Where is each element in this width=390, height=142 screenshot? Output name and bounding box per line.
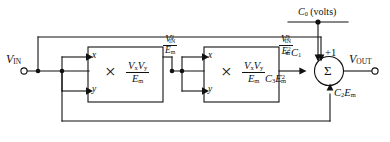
arrow-summer-c3 <box>299 68 306 75</box>
label-c0-source: C0 (volts) <box>298 7 336 17</box>
junction-input-node <box>60 69 65 74</box>
multiplier-2-formula-denominator: Em <box>242 72 265 85</box>
junction-c0-node <box>315 19 320 24</box>
multiplier-1-input-x-label: x <box>92 51 96 61</box>
stage1-out-denominator: Em <box>163 45 177 56</box>
multiplier-1-formula-denominator: Em <box>126 72 149 85</box>
multiplier-2-operator: × <box>221 62 232 81</box>
multiplier-2-formula-numerator: VxVy <box>242 60 265 72</box>
multiplier-2-formula: VxVy Em <box>242 60 265 85</box>
junction-stage1-out <box>170 69 175 74</box>
label-summer-gain-c2: C2Em <box>334 88 356 99</box>
label-summer-gain-unity: +1 <box>325 48 336 59</box>
multiplier-2-input-y-label: y <box>208 85 212 95</box>
multiplier-1-input-y-label: y <box>92 85 96 95</box>
label-v-in: VIN <box>6 53 21 66</box>
stage2-out-numerator: V3IN <box>279 34 293 45</box>
summer-sigma-symbol: Σ <box>324 64 332 77</box>
label-v-out: VOUT <box>349 53 372 66</box>
junction-stage2-in <box>180 69 185 74</box>
multiplier-1-formula-numerator: VxVy <box>126 60 149 72</box>
signal-label-stage1-out: V2IN Em <box>163 34 177 56</box>
terminal-v-out <box>372 68 378 74</box>
multiplier-1-formula: VxVy Em <box>126 60 149 85</box>
multiplier-2-input-x-label: x <box>208 51 212 61</box>
label-summer-gain-c1: +C1 <box>284 48 301 59</box>
figure-canvas: VIN VOUT x y × VxVy Em x y × VxVy Em V2I… <box>0 0 390 142</box>
terminal-v-in <box>21 68 27 74</box>
stage1-out-numerator: V2IN <box>163 34 177 45</box>
label-summer-gain-c3: C3E2m <box>265 74 286 85</box>
multiplier-1-operator: × <box>105 62 116 81</box>
junction-input-top <box>36 69 41 74</box>
